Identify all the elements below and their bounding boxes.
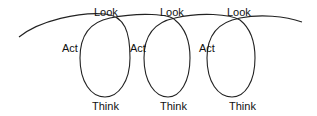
loop-2-look-label: Look bbox=[160, 6, 184, 18]
loop-3-think-label: Think bbox=[229, 100, 256, 112]
loop-2-act-label: Act bbox=[130, 42, 146, 54]
loop-1-look-label: Look bbox=[94, 6, 118, 18]
loop-1-think-label: Think bbox=[92, 100, 119, 112]
loop-1-act-label: Act bbox=[62, 42, 78, 54]
spiral-curve bbox=[19, 14, 302, 97]
loop-3-look-label: Look bbox=[227, 6, 251, 18]
loop-2-think-label: Think bbox=[160, 100, 187, 112]
look-think-act-spiral-diagram: Look Act Think Look Act Think Look Act T… bbox=[0, 0, 317, 116]
loop-3-act-label: Act bbox=[199, 42, 215, 54]
